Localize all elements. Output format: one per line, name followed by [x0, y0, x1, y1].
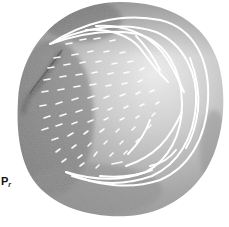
panel-label: Pr [1, 176, 11, 190]
watercolor-disc-illustration [0, 0, 229, 227]
panel-label-subscript: r [8, 181, 11, 188]
